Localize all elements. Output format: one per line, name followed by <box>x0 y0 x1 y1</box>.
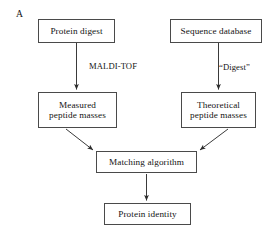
node-protein-digest-label: Protein digest <box>48 26 104 36</box>
node-measured-peptide-masses-label: Measured peptide masses <box>47 100 108 121</box>
panel-label-a: A <box>16 8 23 19</box>
node-sequence-database-label: Sequence database <box>179 26 254 36</box>
node-protein-digest: Protein digest <box>38 19 115 43</box>
node-matching-algorithm-label: Matching algorithm <box>107 157 186 167</box>
node-theoretical-peptide-masses-label: Theoretical peptide masses <box>188 100 249 121</box>
node-matching-algorithm: Matching algorithm <box>96 151 197 173</box>
node-measured-peptide-masses: Measured peptide masses <box>38 92 117 128</box>
node-protein-identity: Protein identity <box>104 203 191 225</box>
node-sequence-database: Sequence database <box>170 19 262 43</box>
edge-label-digest: “Digest” <box>219 62 250 72</box>
node-theoretical-peptide-masses: Theoretical peptide masses <box>181 92 256 128</box>
flowchart-figure: A Protein digest Sequence database Measu… <box>0 0 276 237</box>
edge-label-maldi-tof: MALDI-TOF <box>89 61 137 71</box>
arrow-theoretical-to-matching <box>200 129 228 150</box>
node-protein-identity-label: Protein identity <box>116 209 179 219</box>
arrow-measured-to-matching <box>66 129 93 150</box>
